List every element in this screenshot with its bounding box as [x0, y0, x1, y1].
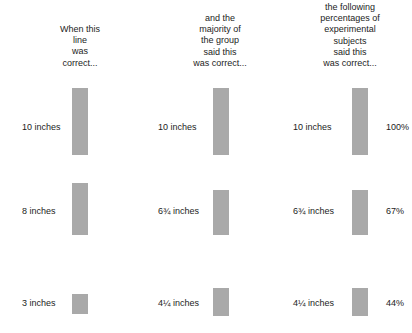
row3-bar-subjects: [352, 288, 368, 316]
row2-bar-standard: [72, 183, 88, 235]
row2-bar-majority: [213, 190, 229, 235]
row1-bar-standard: [72, 88, 88, 155]
row2-cell-subjects: 6¾ inches 67%: [290, 180, 412, 238]
row1-cell-standard: 10 inches: [0, 86, 140, 158]
column-header-standard-line: When this line was correct...: [32, 24, 128, 69]
row2-bar-subjects: [352, 190, 368, 235]
row1-percent-value: 100%: [386, 122, 409, 133]
row1-bar-majority: [213, 88, 229, 155]
row3-bar-standard: [72, 294, 88, 314]
conformity-experiment-figure: When this line was correct... and the ma…: [0, 0, 412, 333]
row1-label-subjects: 10 inches: [293, 122, 332, 133]
row1-bar-subjects: [352, 88, 368, 155]
row1-label-majority: 10 inches: [158, 122, 197, 133]
row2-percent-value: 67%: [386, 206, 404, 217]
row2-cell-standard: 8 inches: [0, 180, 140, 238]
row3-label-majority: 4¼ inches: [158, 298, 199, 309]
row1-label-standard: 10 inches: [22, 122, 61, 133]
row3-bar-majority: [213, 288, 229, 316]
table-row: 8 inches 6¾ inches 6¾ inches 67%: [0, 180, 412, 238]
row2-label-standard: 8 inches: [22, 206, 56, 217]
row2-label-majority: 6¾ inches: [158, 206, 199, 217]
table-row: 3 inches 4¼ inches 4¼ inches 44%: [0, 288, 412, 320]
column-header-group-majority: and the majority of the group said this …: [172, 13, 268, 69]
row2-label-subjects: 6¾ inches: [293, 206, 334, 217]
row3-label-subjects: 4¼ inches: [293, 298, 334, 309]
column-header-subject-percentages: the following percentages of experimenta…: [296, 2, 404, 69]
row3-percent-value: 44%: [386, 298, 404, 309]
row1-cell-subjects: 10 inches 100%: [290, 86, 412, 158]
row3-cell-standard: 3 inches: [0, 288, 140, 320]
row2-cell-majority: 6¾ inches: [140, 180, 290, 238]
row3-cell-majority: 4¼ inches: [140, 288, 290, 320]
table-row: 10 inches 10 inches 10 inches 100%: [0, 86, 412, 158]
row3-label-standard: 3 inches: [22, 298, 56, 309]
row1-cell-majority: 10 inches: [140, 86, 290, 158]
row3-cell-subjects: 4¼ inches 44%: [290, 288, 412, 320]
